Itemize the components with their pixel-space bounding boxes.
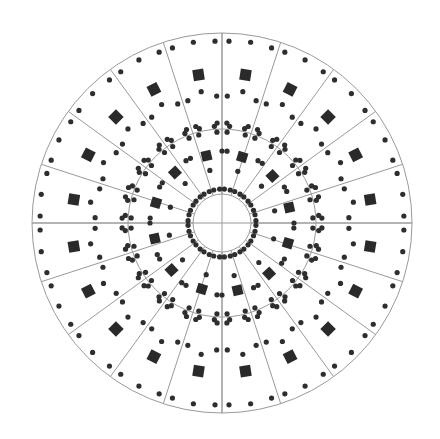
inner-side-dot: [147, 220, 152, 225]
middle-line-pair-dot: [129, 215, 134, 220]
outer-square-marker: [68, 240, 81, 253]
middle-outer-pair-dot: [246, 124, 251, 129]
outer-line-pair-dot: [114, 291, 119, 296]
inner-side-dot: [157, 256, 162, 261]
middle-outer-pair-dot: [319, 216, 324, 221]
outer-line-pair-dot: [254, 98, 259, 103]
inner-side-dot: [148, 215, 153, 220]
outer-rim-pair-dot: [38, 213, 43, 218]
middle-outer-pair-dot: [126, 185, 131, 190]
middle-outer-pair-dot: [123, 194, 128, 199]
outer-square-dot: [313, 126, 318, 131]
outer-square-marker: [364, 240, 377, 253]
inner-square-marker: [200, 150, 212, 162]
outer-rim-pair-dot: [226, 39, 231, 44]
inner-side-dot: [188, 156, 193, 161]
outer-line-pair-dot: [342, 186, 347, 191]
outer-rim-dot: [302, 383, 307, 388]
outer-rim-pair-dot: [170, 45, 175, 50]
outer-rim-pair-dot: [49, 283, 54, 288]
middle-line-pair-dot: [252, 305, 257, 310]
inner-side-dot: [284, 189, 289, 194]
hub-pair-dot: [207, 189, 212, 194]
inner-side-dot: [219, 148, 224, 153]
middle-outer-pair-dot: [215, 121, 220, 126]
hub-pair-dot: [186, 212, 191, 217]
outer-rim-pair-dot: [332, 77, 337, 82]
outer-line-pair-dot: [97, 255, 102, 260]
outer-square-marker: [364, 193, 377, 206]
inner-square-marker: [196, 283, 208, 295]
middle-outer-pair-dot: [184, 127, 189, 132]
middle-line-pair-dot: [149, 278, 154, 283]
middle-outer-pair-dot: [313, 185, 318, 190]
outer-rim-dot: [56, 303, 61, 308]
outer-line-pair-dot: [225, 94, 230, 99]
middle-outer-pair-dot: [313, 256, 318, 261]
outer-rim-pair-dot: [395, 270, 400, 275]
middle-line-pair-dot: [196, 132, 201, 137]
hub-pair-dot: [232, 252, 237, 257]
middle-outer-pair-dot: [136, 275, 141, 280]
outer-line-pair-dot: [346, 226, 351, 231]
inner-square-dot: [207, 168, 212, 173]
outer-line-pair-dot: [214, 94, 219, 99]
outer-rim-dot: [248, 40, 253, 45]
middle-outer-pair-dot: [157, 142, 162, 147]
middle-outer-pair-dot: [136, 166, 141, 171]
middle-line-pair-dot: [129, 225, 134, 230]
outer-square-marker: [239, 69, 252, 82]
outer-square-dot: [88, 241, 93, 246]
outer-square-dot: [101, 160, 106, 165]
outer-rim-dot: [90, 350, 95, 355]
hub-pair-dot: [188, 208, 193, 213]
hub-pair-dot: [245, 199, 250, 204]
outer-line-pair-dot: [225, 347, 230, 352]
outer-rim-pair-dot: [157, 391, 162, 396]
outer-rim-pair-dot: [212, 39, 217, 44]
inner-square-marker: [164, 263, 178, 277]
outer-square-dot: [159, 339, 164, 344]
outer-rim-pair-dot: [282, 391, 287, 396]
middle-line-pair-dot: [170, 297, 175, 302]
hub-pair-dot: [248, 238, 253, 243]
outer-square-marker: [320, 321, 336, 337]
inner-square-dot: [256, 260, 261, 265]
hub-pair-dot: [193, 242, 198, 247]
middle-line-pair-dot: [290, 163, 295, 168]
middle-line-pair-dot: [131, 197, 136, 202]
middle-outer-pair-dot: [316, 247, 321, 252]
hub-pair-dot: [207, 252, 212, 257]
outer-rim-pair-dot: [390, 158, 395, 163]
outer-line-pair-dot: [93, 226, 98, 231]
middle-outer-pair-dot: [141, 158, 146, 163]
outer-rim-pair-dot: [118, 372, 123, 377]
middle-outer-pair-dot: [224, 121, 229, 126]
outer-line-pair-dot: [338, 176, 343, 181]
middle-outer-pair-dot: [141, 283, 146, 288]
middle-line-pair-dot: [277, 291, 282, 296]
inner-side-dot: [291, 220, 296, 225]
outer-line-pair-dot: [298, 121, 303, 126]
middle-line-pair-dot: [143, 270, 148, 275]
middle-line-pair-dot: [243, 132, 248, 137]
middle-line-pair-dot: [269, 144, 274, 149]
outer-square-dot: [125, 314, 130, 319]
hub-pair-dot: [241, 246, 246, 251]
outer-rim-pair-dot: [362, 333, 367, 338]
hub-pair-dot: [185, 223, 190, 228]
inner-square-dot: [271, 236, 276, 241]
middle-line-pair-dot: [135, 253, 140, 258]
middle-line-pair-dot: [304, 253, 309, 258]
outer-line-pair-dot: [319, 299, 324, 304]
concentric-diagram: [0, 0, 440, 439]
inner-square-marker: [168, 165, 182, 179]
outer-square-dot: [280, 339, 285, 344]
outer-rim-dot: [349, 350, 354, 355]
radial-lines: [32, 33, 412, 413]
hub-pair-dot: [198, 194, 203, 199]
middle-outer-pair-dot: [193, 317, 198, 322]
outer-rim-pair-dot: [212, 402, 217, 407]
inner-side-dot: [219, 292, 224, 297]
outer-line-pair-dot: [120, 299, 125, 304]
